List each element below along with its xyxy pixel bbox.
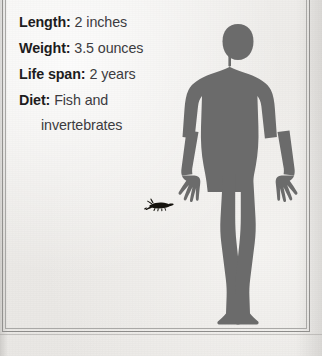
fact-label-life-span: Life span: [19, 66, 86, 82]
fact-value-weight: 3.5 ounces [74, 40, 143, 56]
fact-label-weight: Weight: [19, 40, 70, 56]
fact-value-diet: Fish and [54, 92, 108, 108]
fact-label-diet: Diet: [19, 92, 50, 108]
page-fold-line [0, 334, 322, 335]
human-silhouette-icon [176, 22, 300, 330]
fact-label-length: Length: [19, 14, 71, 30]
animal-fact-box: Length: 2 inches Weight: 3.5 ounces Life… [0, 0, 322, 356]
crustacean-silhouette-icon [144, 198, 174, 214]
fact-value-life-span: 2 years [89, 66, 135, 82]
fact-value-length: 2 inches [75, 14, 127, 30]
